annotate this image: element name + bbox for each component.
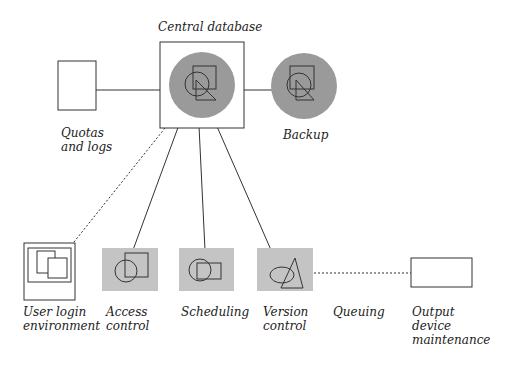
edge-central-access xyxy=(133,122,180,250)
output-device-label-line2: device xyxy=(412,319,451,333)
user-login-environment-node[interactable] xyxy=(24,243,75,300)
output-device-maintenance-box[interactable] xyxy=(411,258,472,287)
output-device-label-line1: Output xyxy=(412,305,455,319)
scheduling-box xyxy=(179,248,234,291)
user-login-label-line2: environment xyxy=(23,319,100,333)
scheduling-node[interactable] xyxy=(179,248,234,291)
central-database-node[interactable] xyxy=(160,42,244,128)
central-database-label: Central database xyxy=(158,20,262,34)
access-control-node[interactable] xyxy=(102,248,158,291)
edge-central-version xyxy=(215,122,271,250)
quotas-label-line2: and logs xyxy=(61,140,112,154)
access-control-label-line2: control xyxy=(106,319,149,333)
quotas-and-logs-box[interactable] xyxy=(58,61,96,110)
queuing-label: Queuing xyxy=(333,305,385,319)
output-device-label-line3: maintenance xyxy=(412,333,490,347)
version-control-box xyxy=(257,248,313,291)
access-control-box xyxy=(102,248,158,291)
backup-node[interactable] xyxy=(271,53,337,119)
quotas-label-line1: Quotas xyxy=(61,126,104,140)
backup-label: Backup xyxy=(283,128,328,142)
version-control-label-line2: control xyxy=(263,319,306,333)
access-control-label-line1: Access xyxy=(106,305,148,319)
central-database-circle xyxy=(169,52,235,118)
user-login-label-line1: User login xyxy=(23,305,86,319)
version-control-node[interactable] xyxy=(257,248,313,291)
edge-central-scheduling xyxy=(199,126,205,250)
scheduling-label: Scheduling xyxy=(181,305,249,319)
backup-circle xyxy=(271,53,337,119)
version-control-label-line1: Version xyxy=(263,305,308,319)
